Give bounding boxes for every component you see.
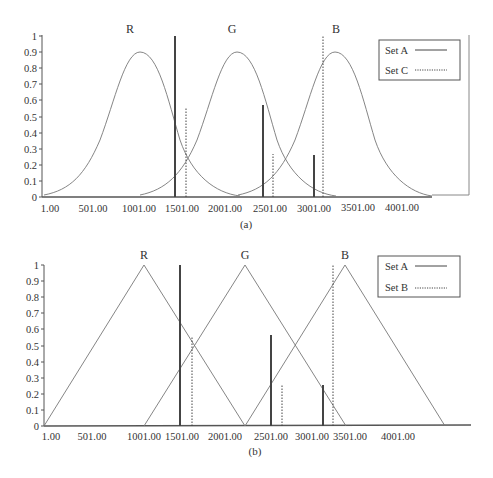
y-tick-label: 0.8: [24, 63, 37, 74]
curve-label-g: G: [241, 248, 250, 262]
y-ticks: 0 0.1 0.2 0.3 0.4 0.5 0.6 0.7 0.8 0.9 1: [24, 31, 42, 203]
y-tick-label: 0.2: [24, 160, 37, 171]
curve-label-g: G: [228, 22, 237, 36]
curve-r: [44, 52, 240, 196]
y-tick-label: 0.8: [26, 292, 39, 303]
x-tick-label: 3001.00: [297, 203, 331, 214]
y-tick-label: 0.3: [24, 144, 37, 155]
y-tick-label: 0.5: [24, 112, 37, 123]
legend-b: Set A Set B: [378, 256, 460, 297]
y-tick-label: 0.7: [26, 308, 39, 319]
x-ticks: 1.00 501.00 1001.00 1501.00 2001.00 2501…: [41, 202, 419, 214]
y-tick-label: 0.9: [24, 47, 37, 58]
y-tick-label: 0.4: [24, 128, 38, 139]
x-tick-label: 2501.00: [253, 203, 287, 214]
y-tick-label: 0.1: [24, 176, 37, 187]
x-tick-label: 1001.00: [122, 203, 156, 214]
x-tick-label: 501.00: [79, 203, 108, 214]
caption-b: (b): [249, 445, 262, 458]
x-ticks: 1.00 501.00 1001.00 1501.00 2001.00 2501…: [42, 431, 415, 442]
curve-label-r: R: [126, 22, 134, 36]
y-tick-label: 0.3: [26, 373, 39, 384]
legend-label-set-a: Set A: [385, 261, 408, 272]
y-tick-label: 0.7: [24, 79, 37, 90]
curve-label-b: B: [332, 22, 340, 36]
y-tick-label: 0: [32, 192, 37, 203]
y-tick-label: 0.6: [26, 324, 39, 335]
y-tick-label: 1: [32, 31, 37, 42]
x-tick-label: 3501.00: [333, 431, 367, 442]
x-tick-label: 4001.00: [385, 202, 419, 213]
x-tick-label: 2001.00: [208, 203, 242, 214]
x-tick-label: 2501.00: [254, 431, 288, 442]
curve-label-b: B: [341, 248, 349, 262]
x-axis: [44, 425, 471, 426]
y-tick-label: 0.6: [24, 95, 37, 106]
y-tick-label: 1: [34, 260, 39, 271]
y-tick-label: 0.9: [26, 276, 39, 287]
y-tick-label: 0.4: [26, 357, 40, 368]
y-tick-label: 0.1: [26, 405, 39, 416]
chart-b: 0 0.1 0.2 0.3 0.4 0.5 0.6 0.7 0.8 0.9 1 …: [26, 248, 471, 458]
x-tick-label: 1501.00: [165, 431, 199, 442]
x-tick-label: 1.00: [42, 431, 60, 442]
y-tick-label: 0.2: [26, 389, 39, 400]
figure: 0 0.1 0.2 0.3 0.4 0.5 0.6 0.7 0.8 0.9 1 …: [0, 0, 493, 478]
curve-g: [144, 265, 346, 426]
x-tick-label: 3001.00: [295, 431, 329, 442]
chart-a: 0 0.1 0.2 0.3 0.4 0.5 0.6 0.7 0.8 0.9 1 …: [24, 22, 469, 231]
y-tick-label: 0: [34, 421, 39, 432]
curve-r: [44, 265, 245, 426]
y-tick-label: 0.5: [26, 341, 39, 352]
x-tick-label: 1001.00: [127, 431, 161, 442]
x-tick-label: 2001.00: [208, 431, 242, 442]
x-tick-label: 501.00: [78, 431, 107, 442]
legend-a: Set A Set C: [379, 40, 460, 80]
legend-label-set-b: Set B: [385, 282, 408, 293]
curve-label-r: R: [140, 248, 148, 262]
x-tick-label: 1.00: [41, 203, 59, 214]
y-ticks: 0 0.1 0.2 0.3 0.4 0.5 0.6 0.7 0.8 0.9 1: [26, 260, 44, 432]
caption-a: (a): [240, 218, 253, 231]
x-tick-label: 4001.00: [381, 431, 415, 442]
x-tick-label: 1501.00: [165, 203, 199, 214]
legend-label-set-c: Set C: [385, 65, 408, 76]
legend-label-set-a: Set A: [385, 45, 408, 56]
x-tick-label: 3501.00: [341, 202, 375, 213]
curve-g: [140, 52, 336, 196]
